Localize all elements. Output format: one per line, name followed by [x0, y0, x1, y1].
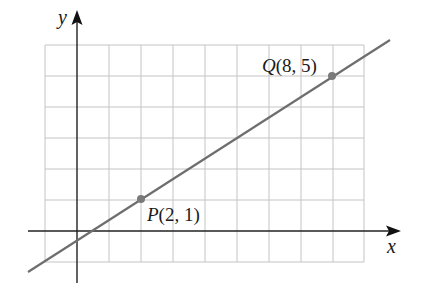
point-q	[328, 72, 336, 80]
point-p-label: P(2, 1)	[146, 204, 200, 226]
point-p-coords: (2, 1)	[159, 204, 200, 226]
y-axis-label: y	[56, 6, 67, 29]
axes	[28, 10, 401, 283]
point-q-coords: (8, 5)	[276, 55, 317, 77]
coordinate-plane-diagram: y x P(2, 1) Q(8, 5)	[0, 0, 431, 287]
point-q-name: Q	[262, 55, 276, 76]
point-p	[137, 195, 145, 203]
point-p-name: P	[146, 204, 159, 225]
point-q-label: Q(8, 5)	[262, 55, 317, 77]
x-axis-label: x	[386, 235, 396, 257]
